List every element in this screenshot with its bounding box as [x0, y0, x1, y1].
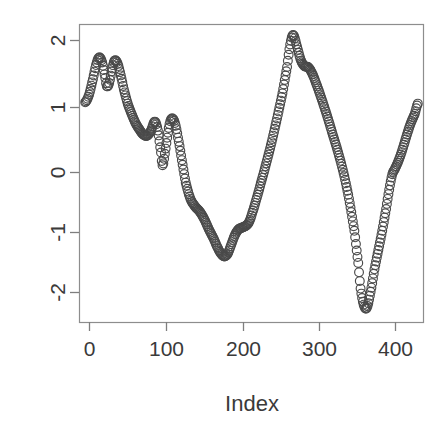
y-tick-label: 2	[46, 35, 69, 47]
r-plot-container: 0100200300400 -2-1012 Index	[0, 0, 448, 438]
x-tick-label: 100	[149, 337, 184, 360]
y-tick-label: 0	[46, 167, 69, 179]
y-tick-label: -1	[46, 223, 69, 242]
y-tick-label: 1	[46, 102, 69, 114]
x-tick-label: 0	[84, 337, 96, 360]
plot-canvas: 0100200300400 -2-1012 Index	[0, 0, 448, 438]
x-tick-label: 200	[226, 337, 261, 360]
x-tick-label: 300	[302, 337, 337, 360]
y-tick-label: -2	[46, 283, 69, 302]
x-axis-title: Index	[225, 391, 279, 416]
x-tick-label: 400	[378, 337, 413, 360]
